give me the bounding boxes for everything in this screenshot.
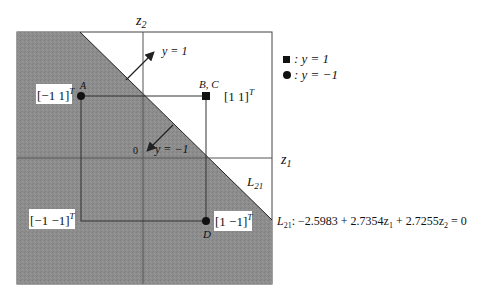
arrow-positive-label: y = 1 bbox=[161, 44, 187, 58]
legend-item-positive: : y = 1 bbox=[294, 51, 329, 66]
line-equation: L21: −2.5983 + 2.7354z1 + 2.7255z2 = 0 bbox=[276, 214, 467, 230]
point-BC-label: B, C bbox=[199, 78, 219, 90]
point-A-label: A bbox=[79, 80, 87, 91]
origin-label: 0 bbox=[133, 145, 138, 156]
coord-corner: [−1 −1]T bbox=[30, 211, 76, 228]
point-D-label: D bbox=[202, 228, 211, 240]
point-BC-marker bbox=[202, 92, 210, 100]
legend-square-icon bbox=[283, 56, 290, 63]
legend-circle-icon bbox=[283, 71, 291, 79]
legend: : y = 1 : y = −1 bbox=[283, 51, 338, 82]
point-D-marker bbox=[202, 217, 210, 225]
legend-item-negative: : y = −1 bbox=[294, 67, 338, 82]
decision-boundary-diagram: z2 z1 0 y = 1 y = −1 A B, C D [−1 1]T [1… bbox=[0, 0, 487, 299]
z1-axis-label: z1 bbox=[280, 152, 291, 169]
z2-axis-label: z2 bbox=[135, 13, 146, 30]
point-A-marker bbox=[77, 92, 85, 100]
arrow-negative-label: y = −1 bbox=[154, 142, 189, 156]
